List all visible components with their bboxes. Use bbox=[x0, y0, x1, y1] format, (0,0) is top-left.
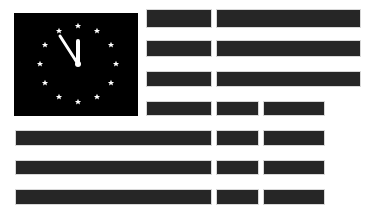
stripe-segment bbox=[15, 160, 212, 175]
stripe-segment bbox=[216, 9, 361, 28]
stripe-segment bbox=[263, 160, 325, 175]
stripe-segment bbox=[216, 130, 259, 146]
stripe-segment bbox=[216, 101, 259, 116]
stripe-segment bbox=[216, 71, 361, 87]
stripe-segment bbox=[263, 130, 325, 146]
stripe-segment bbox=[15, 189, 212, 205]
stripe-segment bbox=[263, 101, 325, 116]
stripe-segment bbox=[263, 189, 325, 205]
stripe-segment bbox=[146, 71, 212, 87]
stripe-segment bbox=[146, 9, 212, 28]
stripe-segment bbox=[15, 130, 212, 146]
clock-canton bbox=[14, 13, 138, 116]
clock-stars-icon bbox=[14, 13, 138, 116]
stripe-segment bbox=[216, 160, 259, 175]
stripe-segment bbox=[216, 189, 259, 205]
stripe-segment bbox=[146, 40, 212, 57]
stripe-segment bbox=[216, 40, 361, 57]
stripe-segment bbox=[146, 101, 212, 116]
